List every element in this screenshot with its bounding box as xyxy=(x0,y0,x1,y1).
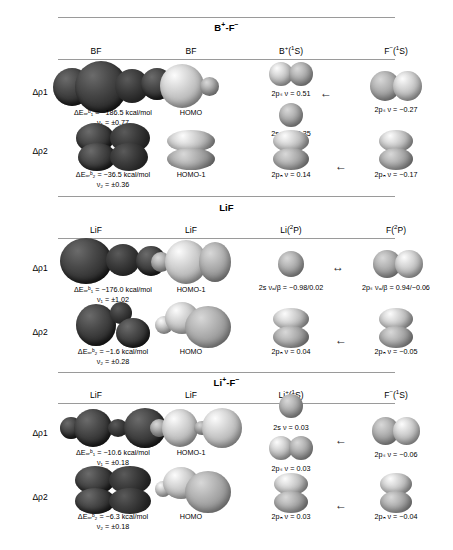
density-plot-lif-rho2-total xyxy=(76,302,150,348)
energy-bf-rho2: ΔEₒᵣᵇ₂ = −36.5 kcal/mol xyxy=(76,170,150,180)
mo-label-ionic-rho1: HOMO-1 xyxy=(177,448,206,458)
energy-ionic-rho1: ΔEₒᵣᵇ₁ = −10.6 kcal/mol xyxy=(76,448,150,458)
charge-flow-arrow-lif-rho1: ↔ xyxy=(332,261,344,273)
fragment-orbital-ionic-rho2-right xyxy=(380,473,412,513)
fragment-label-lif-rho2-left: 2pₙ ν = 0.04 xyxy=(272,347,311,357)
row-label-lif-rho1: Δρ1 xyxy=(32,263,47,273)
charge-flow-arrow-bf-rho2: ← xyxy=(335,160,347,172)
fragment-label-ionic-rho2-right: 2pₙ ν = −0.04 xyxy=(375,512,418,522)
fragment-orbital-bf-rho1-b xyxy=(279,103,303,127)
fragment-orbital-bf-rho1-right xyxy=(370,71,422,101)
column-header-ionic-2: LiF xyxy=(185,390,197,400)
density-plot-bf-rho2-total xyxy=(76,123,150,171)
column-header-bf-2: BF xyxy=(186,46,197,56)
section-title-bf: B+-F− xyxy=(0,22,453,33)
mo-plot-ionic-rho2 xyxy=(155,467,231,513)
section-title-lif: LiF xyxy=(0,202,453,213)
fragment-label-lif-rho1-left: 2s νₐ/β = −0.98/0.02 xyxy=(259,283,323,293)
fragment-orbital-bf-rho2-left xyxy=(273,130,309,170)
mo-label-lif-rho2: HOMO xyxy=(180,347,202,357)
nu-lif-rho2: ν₂ = ±0.28 xyxy=(78,357,148,367)
mo-plot-ionic-rho1 xyxy=(150,407,232,447)
caption-ionic-rho1-energy: ΔEₒᵣᵇ₁ = −10.6 kcal/mol ν₁ = ±0.18 xyxy=(76,448,150,467)
energy-lif-rho1: ΔEₒᵣᵇ₁ = −176.0 kcal/mol xyxy=(74,285,152,295)
mo-label-lif-rho1: HOMO-1 xyxy=(177,285,206,295)
orbital-deformation-density-figure: B+-F− BF BF B+(1S) F−(1S) Δρ1 ΔEₒᵣᵇ₁ = −… xyxy=(0,0,453,550)
fragment-label-bf-rho2-left: 2pₙ ν = 0.14 xyxy=(272,170,311,180)
density-plot-bf-rho1-total xyxy=(53,59,173,113)
fragment-orbital-lif-rho1-left xyxy=(278,251,304,277)
mo-plot-bf-rho1 xyxy=(160,64,222,108)
row-label-bf-rho1: Δρ1 xyxy=(32,87,47,97)
column-header-lif-3: Li(2P) xyxy=(280,225,301,235)
fragment-orbital-ionic-rho1-a xyxy=(279,394,303,418)
column-header-bf-4: F−(1S) xyxy=(384,46,408,56)
caption-lif-rho2-energy: ΔEₒᵣᵇ₂ = −1.6 kcal/mol ν₂ = ±0.28 xyxy=(78,347,148,366)
row-label-bf-rho2: Δρ2 xyxy=(32,146,47,156)
mo-label-bf-rho2: HOMO-1 xyxy=(177,170,206,180)
fragment-orbital-ionic-rho1-b xyxy=(269,436,313,460)
column-header-bf-1: BF xyxy=(91,46,102,56)
fragment-orbital-lif-rho1-right xyxy=(373,250,423,278)
section-title-li-f-ionic: Li+-F− xyxy=(0,377,453,388)
mo-plot-bf-rho2 xyxy=(167,130,215,170)
mo-label-ionic-rho2: HOMO xyxy=(180,512,202,522)
row-label-ionic-rho2: Δρ2 xyxy=(32,492,47,502)
charge-flow-arrow-lif-rho2: ← xyxy=(335,334,347,346)
section-rule-ionic-headers xyxy=(58,403,395,404)
column-header-ionic-1: LiF xyxy=(90,390,102,400)
fragment-label-lif-rho2-right: 2pₙ ν = −0.05 xyxy=(375,347,418,357)
section-rule-top-liف xyxy=(58,372,395,373)
caption-bf-rho2-energy: ΔEₒᵣᵇ₂ = −36.5 kcal/mol ν₂ = ±0.36 xyxy=(76,170,150,189)
fragment-orbital-bf-rho2-right xyxy=(379,130,413,170)
fragment-orbital-bf-rho1-a xyxy=(269,62,313,86)
fragment-label-ionic-rho1-a: 2s ν = 0.03 xyxy=(273,423,308,433)
fragment-orbital-ionic-rho1-right xyxy=(372,417,420,445)
nu-ionic-rho2: ν₂ = ±0.18 xyxy=(78,522,148,532)
row-label-lif-rho2: Δρ2 xyxy=(32,327,47,337)
fragment-label-ionic-rho2-left: 2pₙ ν = 0.03 xyxy=(272,512,311,522)
column-header-lif-2: LiF xyxy=(185,225,197,235)
fragment-label-bf-rho1-right: 2pₛ ν = −0.27 xyxy=(375,105,418,115)
column-header-ionic-4: F−(1S) xyxy=(384,390,408,400)
density-plot-ionic-rho2-total xyxy=(75,466,151,514)
energy-bf-rho1: ΔEₒᵣᵇ₁ = −186.5 kcal/mol xyxy=(74,108,152,118)
section-rule-top-bf xyxy=(58,17,395,18)
charge-flow-arrow-ionic-rho2: ← xyxy=(335,499,347,511)
column-header-lif-4: F(2P) xyxy=(386,225,406,235)
section-rule-top-lif xyxy=(58,196,395,197)
column-header-lif-1: LiF xyxy=(90,225,102,235)
charge-flow-arrow-bf-rho1: ← xyxy=(320,87,332,99)
energy-ionic-rho2: ΔEₒᵣᵇ₂ = −6.3 kcal/mol xyxy=(78,512,148,522)
fragment-label-bf-rho2-right: 2pₙ ν = −0.17 xyxy=(375,170,418,180)
mo-plot-lif-rho1 xyxy=(151,238,231,286)
row-label-ionic-rho1: Δρ1 xyxy=(32,428,47,438)
fragment-label-lif-rho1-right: 2pₛ νₐ/β = 0.94/−0.06 xyxy=(362,283,430,293)
mo-label-bf-rho1: HOMO xyxy=(180,108,202,118)
caption-ionic-rho2-energy: ΔEₒᵣᵇ₂ = −6.3 kcal/mol ν₂ = ±0.18 xyxy=(78,512,148,531)
fragment-orbital-lif-rho2-left xyxy=(273,308,309,348)
energy-lif-rho2: ΔEₒᵣᵇ₂ = −1.6 kcal/mol xyxy=(78,347,148,357)
fragment-label-ionic-rho1-right: 2pₛ ν = −0.06 xyxy=(375,450,418,460)
mo-plot-lif-rho2 xyxy=(155,302,231,348)
fragment-label-bf-rho1-a: 2pₛ ν = 0.51 xyxy=(272,89,311,99)
column-header-bf-3: B+(1S) xyxy=(279,46,303,56)
nu-bf-rho2: ν₂ = ±0.36 xyxy=(76,180,150,190)
charge-flow-arrow-ionic-rho1: ← xyxy=(335,434,347,446)
fragment-orbital-lif-rho2-right xyxy=(379,308,413,348)
fragment-orbital-ionic-rho2-left xyxy=(274,473,308,513)
